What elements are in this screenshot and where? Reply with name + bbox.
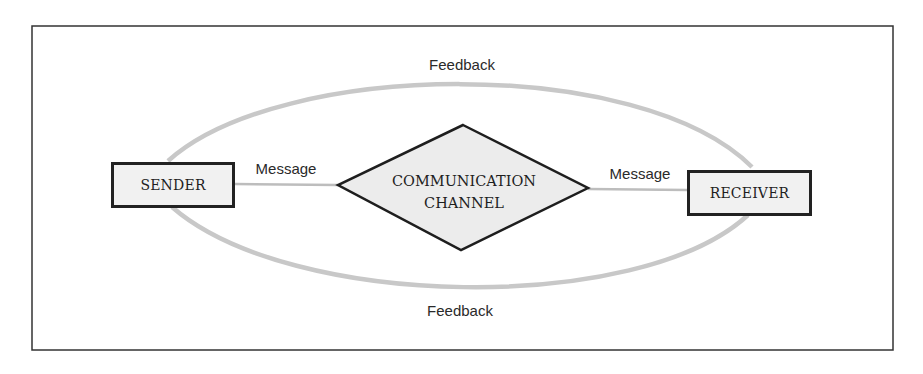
message-label-right: Message <box>610 165 671 182</box>
sender-box: SENDER <box>111 162 235 208</box>
receiver-label: RECEIVER <box>710 185 790 201</box>
message-label-left: Message <box>256 160 317 177</box>
sender-label: SENDER <box>140 177 205 193</box>
feedback-label-top: Feedback <box>429 56 495 73</box>
communication-diagram: SENDER RECEIVER COMMUNICATION CHANNEL Me… <box>0 0 923 374</box>
channel-label-line2: CHANNEL <box>336 192 592 214</box>
message-line-left <box>235 184 338 185</box>
channel-label-line1: COMMUNICATION <box>336 170 592 192</box>
receiver-box: RECEIVER <box>687 170 812 216</box>
feedback-label-bottom: Feedback <box>427 302 493 319</box>
channel-text: COMMUNICATION CHANNEL <box>336 170 592 214</box>
message-line-right <box>588 189 688 190</box>
